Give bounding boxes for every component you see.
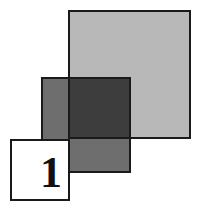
chapter-number: 1 [40,151,62,195]
overlap-region [68,77,131,139]
number-label-box: 1 [10,139,70,201]
